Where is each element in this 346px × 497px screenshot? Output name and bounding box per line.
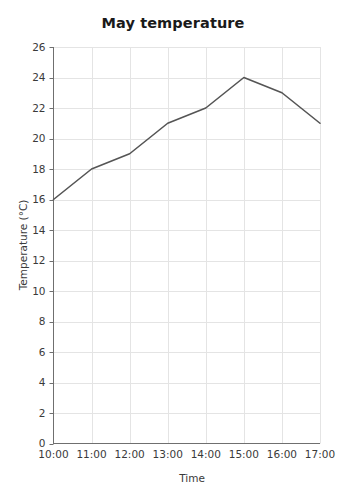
y-axis-tick-label: 20 <box>32 132 45 144</box>
x-axis-tick-label: 15:00 <box>229 448 259 460</box>
y-axis-tick-label: 2 <box>39 407 46 419</box>
x-axis-tick-label: 14:00 <box>191 448 221 460</box>
y-axis-tick-labels: 02468101214161820222426 <box>32 41 46 450</box>
x-axis-tick-labels: 10:0011:0012:0013:0014:0015:0016:0017:00 <box>38 448 335 460</box>
y-axis-title: Temperature (°C) <box>17 200 29 292</box>
x-axis-tick-label: 12:00 <box>115 448 145 460</box>
temperature-data-line <box>54 78 321 200</box>
y-axis-tick-label: 8 <box>39 315 46 327</box>
line-chart-plot: 02468101214161820222426 10:0011:0012:001… <box>0 0 346 497</box>
x-axis-tick-label: 10:00 <box>38 448 68 460</box>
x-axis-tick-label: 13:00 <box>153 448 183 460</box>
chart-container: May temperature 02468101214161820222426 … <box>0 0 346 497</box>
y-axis-tick-label: 10 <box>32 285 45 297</box>
y-axis-tick-label: 16 <box>32 193 46 205</box>
y-axis-tick-label: 14 <box>32 224 46 236</box>
y-axis-tick-label: 18 <box>32 163 45 175</box>
horizontal-gridlines <box>54 48 321 414</box>
y-axis-tick-label: 24 <box>32 71 46 83</box>
x-axis-tick-label: 16:00 <box>267 448 297 460</box>
x-axis-tick-label: 17:00 <box>305 448 335 460</box>
y-axis-ticks <box>50 48 54 445</box>
y-axis-tick-label: 22 <box>32 102 45 114</box>
x-axis-title: Time <box>178 472 205 484</box>
y-axis-tick-label: 6 <box>39 346 46 358</box>
y-axis-tick-label: 4 <box>39 376 46 388</box>
y-axis-tick-label: 26 <box>32 41 46 53</box>
y-axis-tick-label: 12 <box>32 254 45 266</box>
x-axis-tick-label: 11:00 <box>76 448 106 460</box>
